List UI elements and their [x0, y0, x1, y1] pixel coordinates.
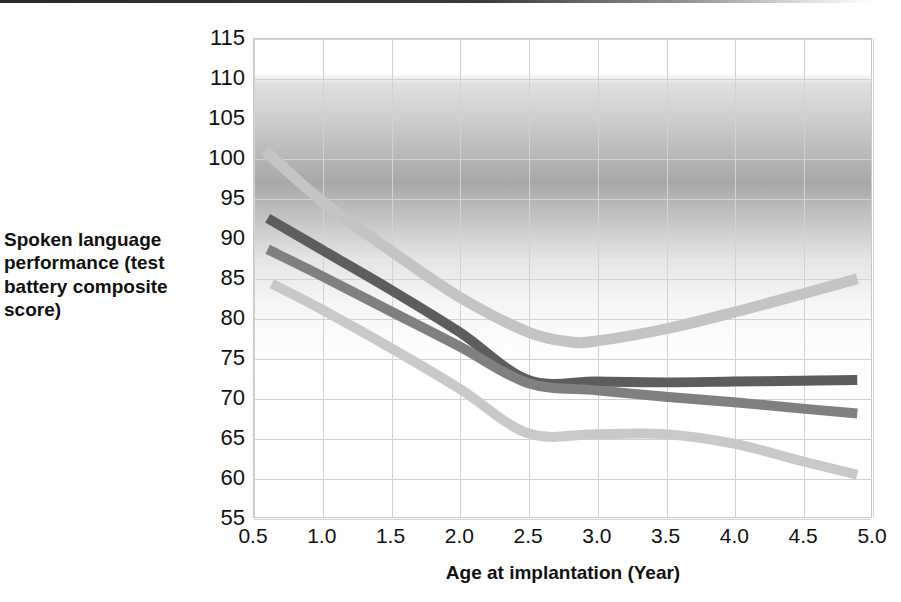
x-axis-title: Age at implantation (Year) [253, 562, 873, 584]
x-axis-tick-labels: 0.51.01.52.02.53.03.54.04.55.0 [253, 524, 872, 558]
x-axis-tick-label: 1.5 [356, 524, 426, 548]
x-axis-tick-label: 4.0 [699, 524, 769, 548]
top-divider-rule [0, 0, 872, 3]
x-axis-tick-label: 3.0 [562, 524, 632, 548]
x-axis-tick-label: 0.5 [218, 524, 288, 548]
y-axis-tick-label: 115 [181, 25, 245, 51]
y-axis-tick-label: 70 [181, 385, 245, 411]
gridline-vertical [873, 39, 874, 517]
y-axis-tick-label: 85 [181, 265, 245, 291]
x-axis-tick-label: 2.5 [493, 524, 563, 548]
gridline-horizontal [254, 519, 871, 520]
plot-area [253, 38, 872, 518]
y-axis-tick-label: 110 [181, 65, 245, 91]
y-axis-tick-label: 105 [181, 105, 245, 131]
line-series-1-light-upper [265, 151, 857, 343]
x-axis-tick-label: 5.0 [837, 524, 901, 548]
y-axis-tick-labels: 115110105100959085807570656055 [175, 38, 245, 518]
y-axis-tick-label: 80 [181, 305, 245, 331]
y-axis-tick-label: 75 [181, 345, 245, 371]
y-axis-tick-label: 95 [181, 185, 245, 211]
y-axis-tick-label: 65 [181, 425, 245, 451]
x-axis-tick-label: 1.0 [287, 524, 357, 548]
x-axis-tick-label: 4.5 [768, 524, 838, 548]
y-axis-tick-label: 60 [181, 465, 245, 491]
y-axis-title: Spoken language performance (test batter… [4, 228, 180, 321]
y-axis-tick-label: 100 [181, 145, 245, 171]
series-lines [254, 39, 871, 517]
x-axis-tick-label: 2.0 [424, 524, 494, 548]
x-axis-tick-label: 3.5 [631, 524, 701, 548]
y-axis-tick-label: 90 [181, 225, 245, 251]
